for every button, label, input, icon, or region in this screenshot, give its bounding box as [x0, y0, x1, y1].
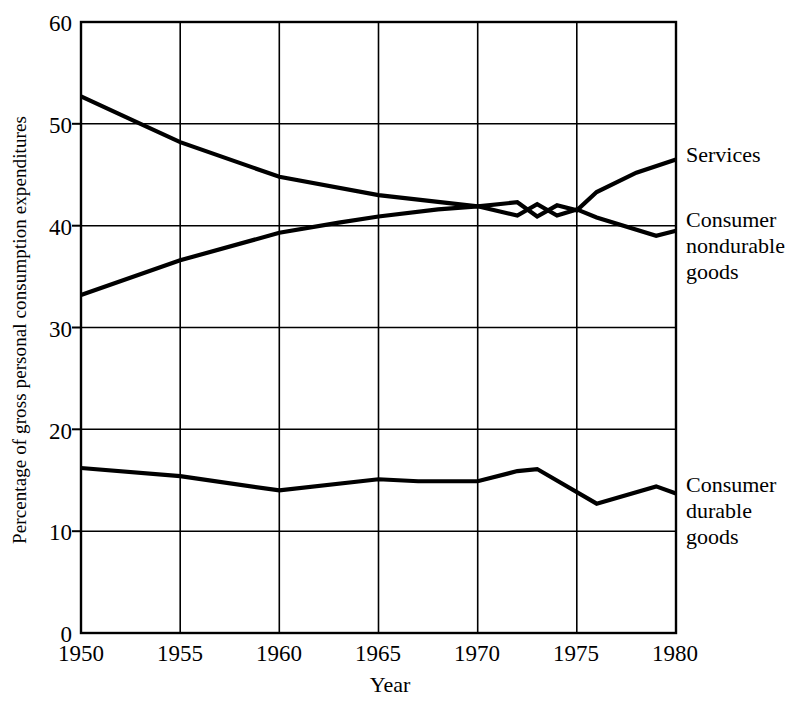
plot-area — [0, 0, 800, 712]
chart-figure: Percentage of gross personal consumption… — [0, 0, 800, 712]
y-tick-marks — [72, 124, 81, 531]
series-label-consumer-durable-goods: Consumer durable goods — [686, 472, 776, 550]
series-label-services: Services — [686, 142, 761, 168]
series-label-consumer-nondurable-goods: Consumer nondurable goods — [686, 207, 785, 285]
